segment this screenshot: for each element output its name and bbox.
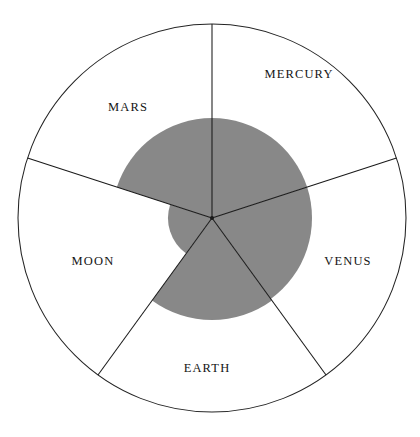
sector-label-mars: MARS [108, 100, 148, 114]
sector-label-moon: MOON [72, 254, 115, 268]
rose-chart-svg: MERCURYVENUSEARTHMOONMARS [0, 0, 420, 437]
sector-label-mercury: MERCURY [264, 67, 333, 81]
sector-label-earth: EARTH [184, 361, 231, 375]
sector-label-venus: VENUS [324, 254, 371, 268]
polar-area-chart: MERCURYVENUSEARTHMOONMARS [0, 0, 420, 437]
center-hub [210, 216, 214, 220]
